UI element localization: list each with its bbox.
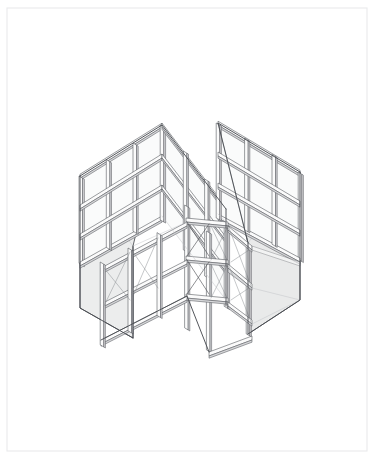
isometric-drawing-canvas: .ln { fill:none; stroke:#4a4d52; stroke-… — [0, 0, 374, 457]
drawing-sheet: .ln { fill:none; stroke:#4a4d52; stroke-… — [0, 0, 374, 457]
